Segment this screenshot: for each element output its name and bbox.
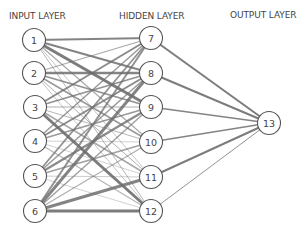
node-label: 4 <box>32 136 38 147</box>
hidden-layer-label: HIDDEN LAYER <box>119 11 184 21</box>
node-label: 13 <box>263 118 275 129</box>
node-label: 3 <box>32 102 38 113</box>
node-label: 2 <box>31 68 37 79</box>
node-11: 11 <box>140 166 163 189</box>
node-label: 7 <box>148 33 154 44</box>
neural-network-diagram: 12345678910111213 <box>0 0 305 234</box>
node-12: 12 <box>140 200 163 223</box>
node-label: 12 <box>145 206 157 217</box>
node-4: 4 <box>24 130 47 153</box>
node-label: 9 <box>148 102 154 113</box>
node-label: 6 <box>32 206 38 217</box>
node-5: 5 <box>24 165 47 188</box>
node-7: 7 <box>140 27 163 50</box>
edge-11-13 <box>151 123 269 177</box>
node-6: 6 <box>24 200 47 223</box>
node-2: 2 <box>23 62 46 85</box>
edge-1-7 <box>34 38 151 40</box>
node-13: 13 <box>258 112 281 135</box>
node-10: 10 <box>140 131 163 154</box>
node-8: 8 <box>140 62 163 85</box>
node-1: 1 <box>23 29 46 52</box>
node-label: 5 <box>32 171 38 182</box>
node-label: 10 <box>145 137 157 148</box>
node-9: 9 <box>140 96 163 119</box>
node-label: 11 <box>145 172 157 183</box>
node-label: 1 <box>31 35 37 46</box>
output-layer-label: OUTPUT LAYER <box>230 10 296 20</box>
node-label: 8 <box>148 68 154 79</box>
edge-12-13 <box>151 123 269 211</box>
node-3: 3 <box>24 96 47 119</box>
input-layer-label: INPUT LAYER <box>9 11 66 21</box>
edge-10-13 <box>151 123 269 142</box>
